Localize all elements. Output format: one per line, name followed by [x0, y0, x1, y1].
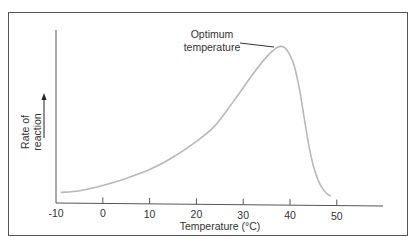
x-axis-title: Temperature (°C)	[180, 220, 261, 232]
x-tick-label: 10	[144, 208, 156, 220]
x-axis	[56, 203, 383, 206]
y-axis-title-line-1: Rate of	[19, 115, 31, 149]
temperature-rate-chart: -1001020304050 Optimum temperature Tempe…	[0, 0, 419, 251]
arrow-up-icon	[42, 93, 47, 100]
x-tick-label: 40	[284, 209, 296, 221]
annotation-line-1: Optimum	[191, 28, 234, 40]
x-tick-label: -10	[48, 207, 63, 219]
x-axis-ticks: -1001020304050	[48, 197, 342, 221]
annotation-leader-line	[240, 43, 274, 47]
y-axis-title: Rate of reaction	[19, 113, 43, 151]
x-tick-label: 20	[191, 208, 203, 220]
x-tick-label: 0	[100, 207, 106, 219]
y-axis-title-line-2: reaction	[31, 113, 43, 151]
rate-curve	[61, 46, 331, 196]
annotation-line-2: temperature	[184, 41, 241, 53]
x-tick-label: 50	[331, 210, 343, 222]
x-tick-label: 30	[237, 209, 249, 221]
